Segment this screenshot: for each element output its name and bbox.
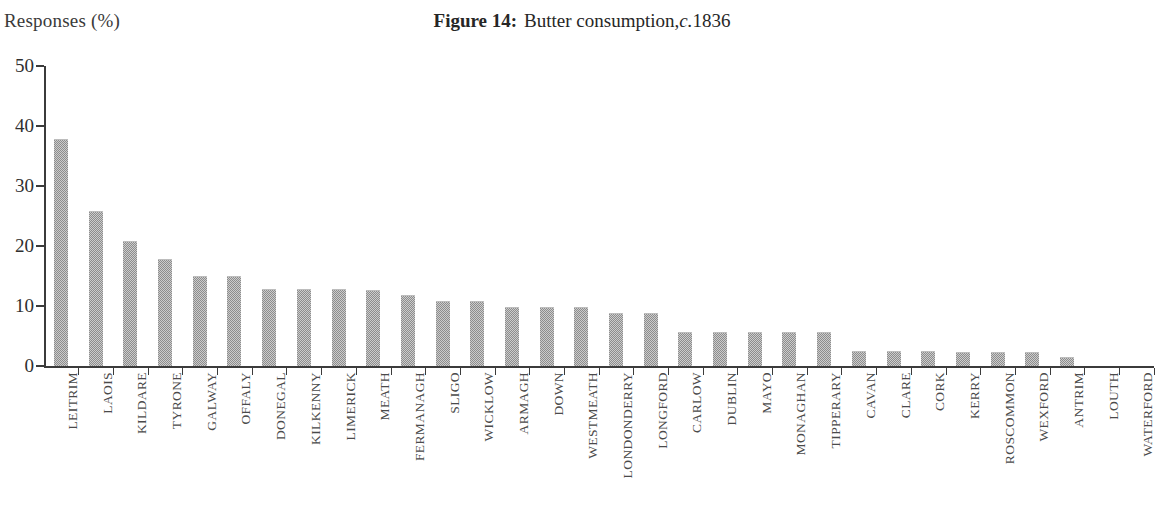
figure-caption-text: Butter consumption, — [524, 10, 679, 31]
y-axis-tick-label: 10 — [0, 296, 34, 315]
x-axis-category-label: CORK — [933, 372, 947, 411]
bar — [123, 241, 137, 366]
bar — [332, 289, 346, 366]
y-axis-tick-label: 30 — [0, 176, 34, 195]
bar — [366, 290, 380, 366]
x-axis-category-label: DONEGAL — [274, 372, 288, 440]
bar — [1060, 357, 1074, 366]
y-axis-tick-label: 40 — [0, 116, 34, 135]
y-axis-tick — [36, 65, 44, 67]
x-axis-category-label: ROSCOMMON — [1003, 372, 1017, 464]
figure-number-label: Figure 14: — [434, 10, 518, 31]
x-axis-category-label: LIMERICK — [344, 372, 358, 440]
x-axis-category-label: WESTMEATH — [586, 372, 600, 459]
x-axis-category-label: ARMAGH — [517, 372, 531, 434]
bar — [470, 301, 484, 366]
x-axis-category-label: DOWN — [552, 372, 566, 416]
bar — [540, 307, 554, 366]
x-axis-category-label: CAVAN — [864, 372, 878, 419]
x-axis-category-label: KILKENNY — [309, 372, 323, 445]
chart-plot-area: 01020304050 — [44, 66, 1154, 368]
bar — [436, 301, 450, 366]
y-axis-tick — [36, 185, 44, 187]
bar — [297, 289, 311, 366]
y-axis-tick-label: 0 — [0, 356, 34, 375]
bar — [921, 351, 935, 366]
figure-year: 1836 — [692, 10, 730, 31]
x-axis-category-label: ANTRIM — [1072, 372, 1086, 428]
bar — [574, 307, 588, 366]
x-axis-category-label: TIPPERARY — [829, 372, 843, 448]
x-axis-category-label: LONDONDERRY — [621, 372, 635, 478]
x-axis-category-label: CARLOW — [690, 372, 704, 433]
y-axis-tick — [36, 365, 44, 367]
bar — [713, 332, 727, 366]
x-axis-category-label: WEXFORD — [1037, 372, 1051, 442]
x-axis-category-label: LOUTH — [1107, 372, 1121, 420]
y-axis-tick — [36, 305, 44, 307]
x-axis-category-label: KILDARE — [135, 372, 149, 434]
x-axis-category-labels: LEITRIMLAOISKILDARETYRONEGALWAYOFFALYDON… — [44, 372, 1154, 522]
bar — [262, 289, 276, 366]
bar — [609, 313, 623, 366]
bar-series — [44, 66, 1154, 366]
bar — [401, 295, 415, 366]
bar — [852, 351, 866, 366]
bar — [782, 332, 796, 366]
bar — [748, 332, 762, 366]
bar — [956, 352, 970, 366]
figure-circa: c. — [679, 10, 692, 31]
bar — [1025, 352, 1039, 366]
bar — [817, 332, 831, 366]
bar — [887, 351, 901, 366]
x-axis-category-label: WICKLOW — [482, 372, 496, 442]
bar — [991, 352, 1005, 366]
x-axis-category-label: MAYO — [760, 372, 774, 414]
x-axis-category-label: GALWAY — [205, 372, 219, 431]
figure-title: Figure 14:Butter consumption,c.1836 — [0, 10, 1164, 32]
x-axis-category-label: LONGFORD — [656, 372, 670, 449]
x-axis-category-label: CLARE — [899, 372, 913, 418]
y-axis-tick — [36, 125, 44, 127]
x-axis-category-label: WATERFORD — [1141, 372, 1155, 457]
bar — [644, 313, 658, 366]
x-axis-category-label: OFFALY — [239, 372, 253, 425]
bar — [89, 211, 103, 366]
x-axis-category-label: MEATH — [378, 372, 392, 421]
x-axis-category-label: SLIGO — [448, 372, 462, 414]
x-axis-category-label: KERRY — [968, 372, 982, 419]
bar — [678, 332, 692, 366]
bar — [227, 276, 241, 366]
y-axis-tick-labels: 01020304050 — [0, 66, 34, 368]
y-axis-tick-label: 50 — [0, 56, 34, 75]
y-axis-tick — [36, 245, 44, 247]
x-axis-category-label: MONAGHAN — [794, 372, 808, 455]
bar — [505, 307, 519, 366]
x-axis-category-label: LAOIS — [101, 372, 115, 414]
bar — [158, 259, 172, 366]
x-axis-category-label: FERMANAGH — [413, 372, 427, 461]
bar — [54, 139, 68, 366]
x-axis-category-label: LEITRIM — [66, 372, 80, 430]
x-axis-category-label: DUBLIN — [725, 372, 739, 425]
y-axis-tick-label: 20 — [0, 236, 34, 255]
x-axis-category-label: TYRONE — [170, 372, 184, 429]
bar — [193, 276, 207, 366]
